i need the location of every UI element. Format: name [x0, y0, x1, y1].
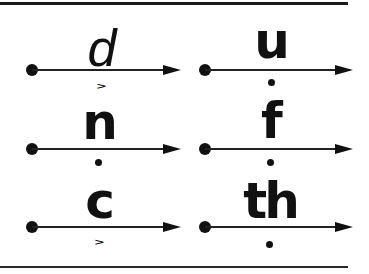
dot-marker-icon: [268, 79, 275, 86]
letter-u: u: [248, 16, 296, 66]
letter-d: d: [80, 22, 124, 74]
arrow-head-icon: [335, 222, 353, 232]
dot-marker-icon: [266, 241, 273, 248]
letter-f: f: [248, 96, 296, 146]
top-rule: [0, 2, 348, 5]
bottom-rule: [0, 266, 348, 268]
letter-c: c: [76, 176, 124, 226]
arrow-head-icon: [163, 144, 181, 154]
dot-marker-icon: [267, 159, 274, 166]
chevron-marker-icon: >: [94, 237, 105, 246]
letter-th: th: [238, 176, 302, 226]
chevron-marker-icon: >: [96, 81, 107, 90]
arrow-head-icon: [335, 65, 353, 75]
dot-marker-icon: [95, 159, 102, 166]
arrow-head-icon: [335, 144, 353, 154]
arrow-head-icon: [163, 65, 181, 75]
arrow-head-icon: [163, 222, 181, 232]
letter-n: n: [76, 97, 124, 147]
